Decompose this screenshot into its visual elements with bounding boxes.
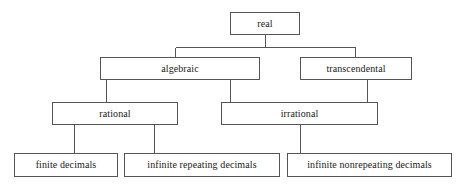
diagram-canvas: real algebraic transcendental rational i… — [0, 0, 462, 188]
node-infinite-repeating-decimals[interactable]: infinite repeating decimals — [124, 153, 280, 177]
node-transcendental[interactable]: transcendental — [300, 57, 412, 80]
node-algebraic-label: algebraic — [161, 64, 199, 74]
node-finite-decimals[interactable]: finite decimals — [14, 153, 118, 177]
node-infinite-nonrepeating-decimals-label: infinite nonrepeating decimals — [307, 160, 432, 170]
node-infinite-nonrepeating-decimals[interactable]: infinite nonrepeating decimals — [287, 153, 452, 177]
node-rational[interactable]: rational — [52, 102, 178, 125]
node-infinite-repeating-decimals-label: infinite repeating decimals — [147, 160, 256, 170]
node-transcendental-label: transcendental — [326, 64, 385, 74]
node-irrational[interactable]: irrational — [221, 102, 378, 125]
node-finite-decimals-label: finite decimals — [36, 160, 97, 170]
node-real[interactable]: real — [230, 12, 300, 35]
node-real-label: real — [257, 19, 272, 29]
node-rational-label: rational — [99, 109, 130, 119]
node-algebraic[interactable]: algebraic — [100, 57, 260, 80]
node-irrational-label: irrational — [281, 109, 319, 119]
